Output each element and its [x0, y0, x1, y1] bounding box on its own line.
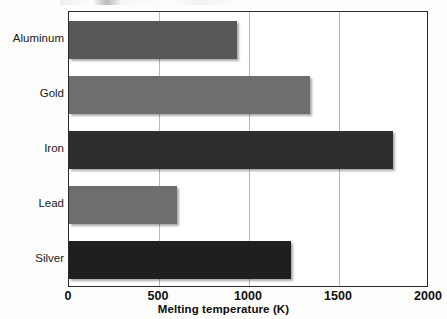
bar-gold [69, 76, 310, 114]
x-tick-1000: 1000 [234, 289, 262, 303]
scan-artifact [60, 0, 240, 5]
plot-area [68, 11, 428, 287]
x-tick-2000: 2000 [414, 289, 442, 303]
bar-row [69, 76, 429, 114]
x-axis-title: Melting temperature (K) [0, 303, 447, 315]
bar-lead [69, 186, 177, 224]
y-label-silver: Silver [0, 253, 64, 265]
x-tick-1500: 1500 [324, 289, 352, 303]
bar-silver [69, 241, 291, 279]
bar-iron [69, 131, 393, 169]
x-tick-500: 500 [148, 289, 169, 303]
bar-row [69, 131, 429, 169]
bar-row [69, 21, 429, 59]
bar-aluminum [69, 21, 237, 59]
y-label-iron: Iron [0, 143, 64, 155]
chart-page: AluminumGoldIronLeadSilver 0500100015002… [0, 0, 447, 319]
y-label-aluminum: Aluminum [0, 33, 64, 45]
x-tick-0: 0 [65, 289, 72, 303]
bar-row [69, 186, 429, 224]
y-label-lead: Lead [0, 198, 64, 210]
y-label-gold: Gold [0, 88, 64, 100]
bar-row [69, 241, 429, 279]
y-axis-category-labels: AluminumGoldIronLeadSilver [0, 11, 64, 287]
